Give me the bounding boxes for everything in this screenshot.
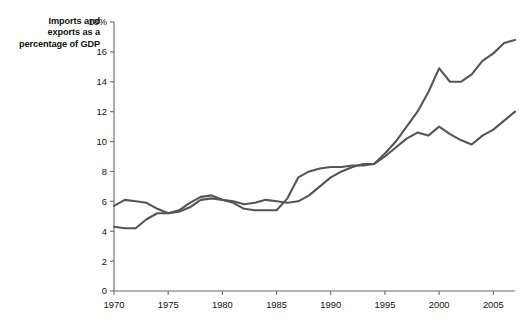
x-tick-label: 1975 (158, 299, 179, 310)
y-tick-label: 16 (97, 46, 107, 57)
y-tick-label: 4 (102, 226, 107, 237)
y-tick-label: 10 (97, 136, 107, 147)
y-tick-label: 2 (102, 256, 107, 267)
y-tick-label: 6 (102, 196, 107, 207)
y-tick-label: 18% (88, 16, 107, 27)
y-tick-label: 0 (102, 285, 107, 296)
y-tick-label: 8 (102, 166, 107, 177)
x-tick-label: 1995 (375, 299, 396, 310)
x-tick-label: 1990 (320, 299, 341, 310)
x-tick-label: 1985 (266, 299, 287, 310)
x-tick-label: 2000 (429, 299, 450, 310)
y-tick-label: 14 (97, 76, 107, 87)
line-chart-plot: 024681012141618%197019751980198519901995… (0, 0, 525, 322)
chart-container: Imports and exports as a percentage of G… (0, 0, 525, 322)
x-tick-label: 1970 (104, 299, 125, 310)
y-tick-label: 12 (97, 106, 107, 117)
x-tick-label: 2005 (483, 299, 504, 310)
x-tick-label: 1980 (212, 299, 233, 310)
series-line-imports (114, 40, 515, 213)
